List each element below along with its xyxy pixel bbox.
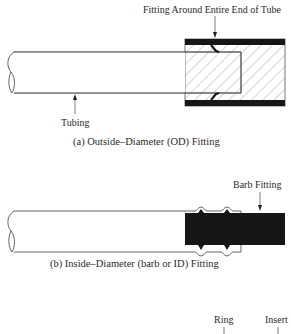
barb-caption: (b) Inside–Diameter (barb or ID) Fitting xyxy=(50,258,219,270)
od-fitting-bottom-wall xyxy=(185,100,285,106)
od-callout-label: Fitting Around Entire End of Tube xyxy=(143,4,281,16)
od-caption: (a) Outside–Diameter (OD) Fitting xyxy=(73,136,220,148)
od-tube-break xyxy=(8,52,15,93)
diagram-canvas xyxy=(0,0,291,334)
barb-fitting-body xyxy=(185,213,285,245)
tubing-arrowhead xyxy=(73,94,77,100)
insert-label: Insert xyxy=(265,314,288,326)
barb-tube-break xyxy=(8,211,15,252)
compression-fitting-diagram xyxy=(224,327,278,334)
tubing-label: Tubing xyxy=(61,117,90,129)
od-fitting-body xyxy=(185,39,285,106)
barb-callout-label: Barb Fitting xyxy=(233,179,282,191)
od-callout-arrowhead xyxy=(213,32,217,38)
barb-callout-arrowhead xyxy=(258,205,262,211)
od-fitting-diagram xyxy=(8,16,285,114)
ring-label: Ring xyxy=(214,314,233,326)
od-fitting-top-wall xyxy=(185,39,285,45)
barb-fitting-diagram xyxy=(8,192,285,256)
